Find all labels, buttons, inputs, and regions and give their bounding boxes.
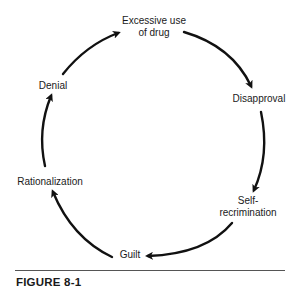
node-disapproval: Disapproval xyxy=(228,93,290,105)
figure-caption: FIGURE 8-1 xyxy=(16,276,81,288)
arrow-self-to-guilt xyxy=(148,223,232,256)
node-self-line2: recrimination xyxy=(213,207,283,219)
caption-divider xyxy=(15,270,285,271)
arrow-denial-to-excessive xyxy=(63,33,118,74)
node-self-line1: Self- xyxy=(213,195,283,207)
arrow-disapproval-to-self xyxy=(254,112,264,190)
node-rationalization-label: Rationalization xyxy=(17,176,83,187)
node-excessive-line1: Excessive use xyxy=(120,15,188,27)
node-guilt-label: Guilt xyxy=(120,249,141,260)
cycle-arrows xyxy=(0,0,300,293)
node-disapproval-label: Disapproval xyxy=(233,93,286,104)
node-excessive-line2: of drug xyxy=(120,27,188,39)
node-guilt: Guilt xyxy=(114,249,146,261)
node-self-recrimination: Self- recrimination xyxy=(213,195,283,219)
node-denial: Denial xyxy=(36,80,70,92)
arrow-guilt-to-rationalization xyxy=(53,192,112,257)
node-denial-label: Denial xyxy=(39,80,67,91)
cycle-diagram: Excessive use of drug Disapproval Self- … xyxy=(0,0,300,293)
node-excessive-use: Excessive use of drug xyxy=(120,15,188,39)
arrow-excessive-to-disapproval xyxy=(184,32,251,86)
node-rationalization: Rationalization xyxy=(14,176,86,188)
arrow-rationalization-to-denial xyxy=(42,96,51,166)
